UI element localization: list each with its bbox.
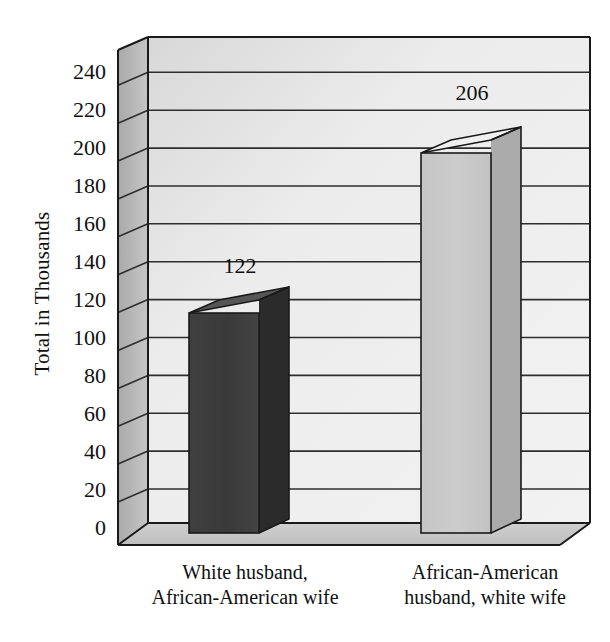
bar-value-label-1: 122	[200, 255, 280, 277]
x-category-label-2-line1: African-American	[360, 560, 610, 585]
bar-2[interactable]	[421, 127, 521, 533]
x-category-label-2: African-American husband, white wife	[360, 560, 610, 610]
bar-chart: Total in Thousands 240 220 200 180 160 1…	[0, 0, 610, 642]
bar-value-label-2: 206	[432, 82, 512, 104]
x-category-label-1-line1: White husband,	[120, 560, 370, 585]
plot-area	[0, 0, 610, 642]
x-category-label-1-line2: African-American wife	[120, 585, 370, 610]
x-category-label-1: White husband, African-American wife	[120, 560, 370, 610]
bar-1[interactable]	[189, 287, 289, 533]
left-wall	[118, 37, 148, 545]
x-category-label-2-line2: husband, white wife	[360, 585, 610, 610]
